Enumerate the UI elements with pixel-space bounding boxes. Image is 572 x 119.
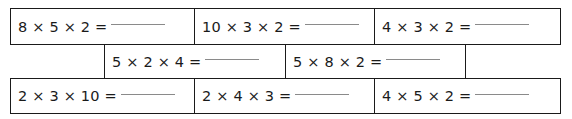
problem-expression: 2 × 3 × 10 = [18,89,117,104]
answer-blank[interactable] [305,24,359,25]
answer-blank[interactable] [386,59,440,60]
problem-expression: 5 × 8 × 2 = [293,55,382,70]
answer-blank[interactable] [121,94,175,95]
problem-cell[interactable]: 4 × 3 × 2 = [374,8,561,45]
problem-cell[interactable]: 5 × 2 × 4 = [104,44,286,79]
problem-cell[interactable]: 2 × 4 × 3 = [194,78,375,114]
problem-cell[interactable]: 4 × 5 × 2 = [374,78,561,114]
problem-expression: 5 × 2 × 4 = [112,55,201,70]
problem-cell[interactable]: 5 × 8 × 2 = [285,44,466,79]
problem-expression: 4 × 5 × 2 = [382,89,471,104]
problem-expression: 4 × 3 × 2 = [382,20,471,35]
empty-spacer-cell [10,44,105,79]
problem-expression: 2 × 4 × 3 = [202,89,291,104]
empty-spacer-cell [465,44,561,79]
answer-blank[interactable] [111,24,165,25]
problem-cell[interactable]: 8 × 5 × 2 = [10,8,195,45]
answer-blank[interactable] [475,94,529,95]
problem-expression: 8 × 5 × 2 = [18,20,107,35]
problem-expression: 10 × 3 × 2 = [202,20,301,35]
answer-blank[interactable] [205,59,259,60]
worksheet-grid: 8 × 5 × 2 = 10 × 3 × 2 = 4 × 3 × 2 = 5 ×… [0,0,572,119]
problem-cell[interactable]: 2 × 3 × 10 = [10,78,195,114]
problem-cell[interactable]: 10 × 3 × 2 = [194,8,375,45]
answer-blank[interactable] [295,94,349,95]
answer-blank[interactable] [475,24,529,25]
